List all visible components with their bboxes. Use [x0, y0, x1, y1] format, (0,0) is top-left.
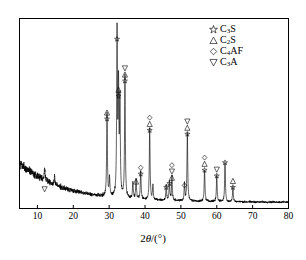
x-tick-50: 50 [171, 211, 191, 221]
xrd-chart-figure: C3S C2S C4AF C3A [0, 0, 306, 260]
x-axis-ticks [37, 205, 288, 209]
legend-item-c3s: C3S [207, 24, 285, 35]
peak-marker-triangle-down [122, 66, 127, 71]
triangle-up-icon [207, 35, 220, 46]
x-tick-40: 40 [135, 211, 155, 221]
peak-marker-triangle-down [214, 167, 219, 172]
legend-item-c3a: C3A [207, 57, 285, 68]
diamond-icon [207, 46, 220, 57]
chart-legend: C3S C2S C4AF C3A [207, 24, 285, 68]
peak-marker-triangle-down [42, 187, 47, 192]
x-axis-title: 2θ/(°) [0, 232, 306, 244]
peak-marker-diamond [170, 163, 175, 168]
peak-marker-diamond [147, 115, 152, 120]
peak-marker-triangle-up [230, 178, 235, 183]
peak-marker-diamond [202, 155, 207, 160]
peak-marker-diamond [138, 165, 143, 170]
x-tick-60: 60 [207, 211, 227, 221]
x-axis-title-suffix: /(°) [151, 232, 166, 244]
x-tick-80: 80 [279, 211, 299, 221]
x-tick-70: 70 [243, 211, 263, 221]
peak-marker-triangle-down [169, 169, 174, 174]
x-tick-20: 20 [63, 211, 83, 221]
legend-label-c3a: C3A [220, 56, 237, 70]
triangle-down-icon [207, 57, 220, 68]
x-tick-30: 30 [99, 211, 119, 221]
legend-item-c4af: C4AF [207, 46, 285, 57]
peak-marker-triangle-up [185, 125, 190, 130]
x-tick-10: 10 [27, 211, 47, 221]
peak-marker-triangle-down [185, 119, 190, 124]
legend-item-c2s: C2S [207, 35, 285, 46]
star-icon [207, 24, 220, 35]
peak-marker-triangle-up [147, 121, 152, 126]
peak-marker-triangle-up [202, 161, 207, 166]
